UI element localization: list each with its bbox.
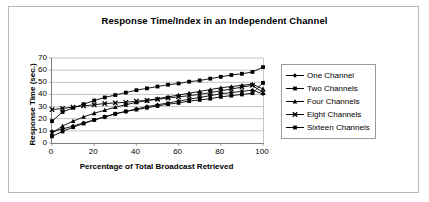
legend-item[interactable]: Eight Channels [285, 108, 370, 121]
chart-frame: Response Time/Index in an Independent Ch… [8, 6, 419, 193]
series-4-point-11 [166, 102, 170, 106]
legend-marker-0 [293, 73, 298, 78]
series-4-point-1 [61, 130, 65, 134]
series-1-point-20 [261, 65, 265, 69]
series-1-point-8 [135, 88, 139, 92]
series-4-point-3 [82, 122, 86, 126]
series-4-point-7 [124, 110, 128, 114]
legend-marker-square-icon [285, 83, 305, 94]
series-1-point-18 [240, 72, 244, 76]
series-4-point-4 [92, 118, 96, 122]
legend-label: One Channel [307, 71, 354, 81]
y-axis-tick-label: 0 [29, 139, 47, 147]
x-axis-tick-label: 40 [120, 148, 150, 156]
series-4-point-18 [240, 93, 244, 97]
legend-item[interactable]: Two Channels [285, 82, 370, 95]
series-4-point-5 [103, 115, 107, 119]
legend-marker-1 [293, 87, 297, 91]
legend-marker-triangle-icon [285, 96, 305, 107]
series-1-point-17 [229, 73, 233, 77]
legend-marker-cross-icon [285, 109, 305, 120]
series-1-point-7 [124, 91, 128, 95]
series-4-point-13 [187, 99, 191, 103]
series-4-point-10 [156, 104, 160, 108]
plot-svg [52, 58, 263, 143]
series-4-point-6 [113, 112, 117, 116]
series-1-point-15 [208, 77, 212, 81]
y-axis-tick-label: 50 [29, 78, 47, 86]
legend-label: Two Channels [307, 84, 358, 94]
series-1-point-1 [61, 110, 65, 114]
x-axis-tick-label: 20 [78, 148, 108, 156]
legend-item[interactable]: Four Channels [285, 95, 370, 108]
series-4-point-20 [261, 81, 265, 85]
legend-label: Four Channels [307, 97, 359, 107]
chart-title: Response Time/Index in an Independent Ch… [9, 15, 420, 26]
chart-figure: Response Time/Index in an Independent Ch… [0, 0, 429, 202]
x-axis-label: Percentage of Total Broadcast Retrieved [51, 162, 262, 171]
x-axis-ticks: 020406080100 [51, 148, 262, 160]
x-axis-tick-label: 60 [163, 148, 193, 156]
y-axis-tick-label: 70 [29, 54, 47, 62]
series-4-point-15 [208, 97, 212, 101]
series-1-point-11 [166, 83, 170, 87]
legend-item[interactable]: Sixteen Channels [285, 121, 370, 134]
series-1-point-5 [103, 96, 107, 100]
chart-legend: One ChannelTwo ChannelsFour ChannelsEigh… [281, 64, 376, 139]
series-4-point-16 [219, 95, 223, 99]
series-1-point-19 [251, 70, 255, 74]
series-1-point-12 [177, 82, 181, 86]
x-axis-tick-label: 0 [36, 148, 66, 156]
x-axis-tick-label: 100 [247, 148, 277, 156]
series-1-point-14 [198, 79, 202, 83]
legend-label: Eight Channels [307, 110, 361, 120]
series-1-point-10 [156, 85, 160, 89]
y-axis-ticks: 010203040506070 [27, 58, 47, 143]
y-axis-tick-label: 10 [29, 127, 47, 135]
series-4-point-2 [71, 125, 75, 129]
legend-marker-4 [293, 126, 297, 130]
legend-item[interactable]: One Channel [285, 69, 370, 82]
series-4-point-12 [177, 101, 181, 105]
series-1-point-4 [92, 99, 96, 103]
series-1-point-13 [187, 80, 191, 84]
legend-marker-square-filled-icon [285, 122, 305, 133]
series-4-point-17 [229, 94, 233, 98]
x-axis-tick-label: 80 [205, 148, 235, 156]
series-4-point-14 [198, 98, 202, 102]
plot-area [51, 58, 264, 144]
y-axis-tick-label: 40 [29, 90, 47, 98]
y-axis-tick-label: 20 [29, 115, 47, 123]
legend-label: Sixteen Channels [307, 123, 370, 133]
series-1-point-0 [50, 119, 54, 123]
series-4-point-9 [145, 106, 149, 110]
series-4-point-19 [251, 91, 255, 95]
series-1-point-6 [113, 93, 117, 97]
legend-marker-diamond-icon [285, 70, 305, 81]
series-1-point-16 [219, 75, 223, 79]
series-1-point-9 [145, 86, 149, 90]
series-4-point-0 [50, 134, 54, 138]
y-axis-tick-label: 30 [29, 103, 47, 111]
y-axis-tick-label: 60 [29, 66, 47, 74]
series-4-point-8 [135, 108, 139, 112]
